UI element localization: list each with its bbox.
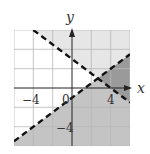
inequality-graph: x y −4 4 0 −4 bbox=[0, 0, 150, 154]
y-axis-label: y bbox=[65, 9, 75, 25]
origin-label: 0 bbox=[62, 93, 70, 107]
x-tick-pos4: 4 bbox=[107, 93, 115, 107]
x-tick-neg4: −4 bbox=[22, 93, 40, 107]
x-axis-label: x bbox=[137, 80, 145, 96]
y-tick-neg4: −4 bbox=[56, 121, 74, 135]
